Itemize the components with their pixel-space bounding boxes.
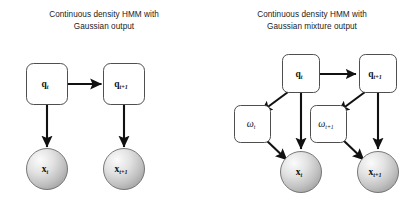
node-omega-t1[interactable]: ωt+1 bbox=[311, 106, 347, 143]
node-q-t[interactable]: qt bbox=[283, 55, 320, 93]
node-q-t1[interactable]: qt+1 bbox=[360, 55, 397, 93]
node-q-t1[interactable]: qt+1 bbox=[104, 64, 145, 105]
node-omega-t[interactable]: ωt bbox=[235, 106, 271, 143]
node-x-t1[interactable]: xt+1 bbox=[104, 149, 145, 190]
node-q-t[interactable]: qt bbox=[27, 64, 68, 105]
panel-gaussian-output: Continuous density HMM with Gaussian out… bbox=[0, 0, 208, 201]
node-x-t[interactable]: xt bbox=[27, 149, 68, 190]
edge-omegat1-to-xt1 bbox=[343, 140, 364, 160]
diagram-gaussian-output: qt qt+1 xt bbox=[0, 0, 208, 201]
hmm-figure: Continuous density HMM with Gaussian out… bbox=[0, 0, 416, 201]
panel-gaussian-mixture-output: Continuous density HMM with Gaussian mix… bbox=[208, 0, 416, 201]
node-x-t1[interactable]: xt+1 bbox=[358, 152, 399, 193]
diagram-gaussian-mixture-output: qt qt+1 ωt ωt+1 bbox=[208, 0, 416, 201]
edge-omegat-to-xt bbox=[266, 140, 287, 160]
node-x-t[interactable]: xt bbox=[281, 152, 322, 193]
